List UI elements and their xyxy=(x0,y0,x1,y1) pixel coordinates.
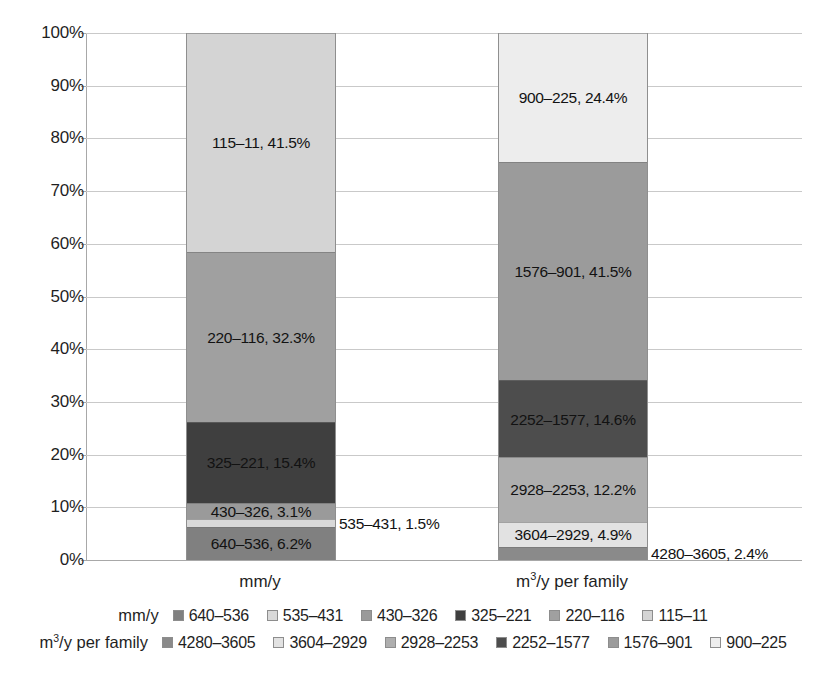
bar-segment[interactable]: 4280–3605, 2.4% xyxy=(499,547,647,560)
legend-item[interactable]: 325–221 xyxy=(455,607,531,625)
segment-data-label: 900–225, 24.4% xyxy=(519,90,628,106)
segment-data-label: 535–431, 1.5% xyxy=(339,516,439,532)
legend-item-label: 220–116 xyxy=(565,607,624,625)
legend: mm/y640–536535–431430–326325–221220–1161… xyxy=(0,606,826,652)
legend-row-title: m3/y per family xyxy=(39,633,148,652)
y-axis-tick-label: 80% xyxy=(14,128,84,148)
legend-swatch xyxy=(385,637,396,648)
bar-segment[interactable]: 2928–2253, 12.2% xyxy=(499,457,647,521)
bar-segment[interactable]: 535–431, 1.5% xyxy=(187,519,335,527)
legend-item-label: 325–221 xyxy=(471,607,531,625)
legend-item-label: 640–536 xyxy=(189,607,249,625)
legend-item-label: 3604–2929 xyxy=(289,634,366,652)
legend-row-title: mm/y xyxy=(118,606,158,625)
x-axis-category-label: m3/y per family xyxy=(498,572,646,592)
superscript: 3 xyxy=(53,632,59,644)
legend-swatch xyxy=(710,637,721,648)
bar-2[interactable]: 4280–3605, 2.4%3604–2929, 4.9%2928–2253,… xyxy=(498,33,648,560)
bar-segment[interactable]: 325–221, 15.4% xyxy=(187,422,335,503)
legend-swatch xyxy=(496,637,507,648)
legend-swatch xyxy=(361,610,372,621)
y-axis-tick-label: 90% xyxy=(14,76,84,96)
stacked-bar-chart: 640–536, 6.2%535–431, 1.5%430–326, 3.1%3… xyxy=(0,0,826,688)
bar-segment[interactable]: 430–326, 3.1% xyxy=(187,503,335,519)
superscript: 3 xyxy=(530,570,536,582)
y-axis-tick-label: 70% xyxy=(14,181,84,201)
segment-data-label: 430–326, 3.1% xyxy=(211,504,311,520)
legend-item[interactable]: 900–225 xyxy=(710,634,786,652)
segment-data-label: 1576–901, 41.5% xyxy=(514,264,631,280)
segment-data-label: 2928–2253, 12.2% xyxy=(510,482,635,498)
y-axis-tick-label: 30% xyxy=(14,392,84,412)
y-axis-tick-label: 60% xyxy=(14,234,84,254)
segment-data-label: 2252–1577, 14.6% xyxy=(510,412,635,428)
legend-item-label: 2252–1577 xyxy=(512,634,589,652)
legend-swatch xyxy=(608,637,619,648)
segment-data-label: 3604–2929, 4.9% xyxy=(514,527,631,543)
y-axis-tick-label: 40% xyxy=(14,339,84,359)
segment-data-label: 640–536, 6.2% xyxy=(211,536,311,552)
legend-item[interactable]: 115–11 xyxy=(642,607,707,625)
legend-item[interactable]: 220–116 xyxy=(549,607,624,625)
legend-swatch xyxy=(162,637,173,648)
y-axis-tick-label: 10% xyxy=(14,497,84,517)
bar-segment[interactable]: 220–116, 32.3% xyxy=(187,252,335,422)
plot-area: 640–536, 6.2%535–431, 1.5%430–326, 3.1%3… xyxy=(86,33,802,560)
legend-swatch xyxy=(173,610,184,621)
legend-item[interactable]: 4280–3605 xyxy=(162,634,255,652)
bar-segment[interactable]: 1576–901, 41.5% xyxy=(499,162,647,381)
legend-item-label: 2928–2253 xyxy=(401,634,478,652)
legend-item[interactable]: 2928–2253 xyxy=(385,634,478,652)
legend-item-label: 430–326 xyxy=(377,607,437,625)
bar-segment[interactable]: 2252–1577, 14.6% xyxy=(499,380,647,457)
legend-item-label: 115–11 xyxy=(658,607,707,625)
bar-segment[interactable]: 640–536, 6.2% xyxy=(187,527,335,560)
legend-item-label: 1576–901 xyxy=(624,634,693,652)
legend-swatch xyxy=(549,610,560,621)
y-axis-tick-label: 20% xyxy=(14,445,84,465)
legend-swatch xyxy=(642,610,653,621)
legend-item-label: 900–225 xyxy=(726,634,786,652)
legend-item[interactable]: 2252–1577 xyxy=(496,634,589,652)
segment-data-label: 325–221, 15.4% xyxy=(207,455,316,471)
bar-segment[interactable]: 115–11, 41.5% xyxy=(187,33,335,252)
legend-item-label: 535–431 xyxy=(283,607,343,625)
y-axis-tick-label: 0% xyxy=(14,550,84,570)
x-axis-category-label: mm/y xyxy=(186,572,334,592)
bar-segment[interactable]: 3604–2929, 4.9% xyxy=(499,522,647,548)
y-axis-tick-label: 100% xyxy=(14,23,84,43)
legend-swatch xyxy=(273,637,284,648)
legend-item[interactable]: 640–536 xyxy=(173,607,249,625)
legend-item[interactable]: 430–326 xyxy=(361,607,437,625)
legend-row: m3/y per family4280–36053604–29292928–22… xyxy=(0,633,826,652)
y-axis-tick-label: 50% xyxy=(14,287,84,307)
legend-item-label: 4280–3605 xyxy=(178,634,255,652)
bar-segment[interactable]: 900–225, 24.4% xyxy=(499,33,647,162)
legend-swatch xyxy=(455,610,466,621)
legend-swatch xyxy=(267,610,278,621)
legend-item[interactable]: 1576–901 xyxy=(608,634,693,652)
legend-item[interactable]: 535–431 xyxy=(267,607,343,625)
legend-item[interactable]: 3604–2929 xyxy=(273,634,366,652)
segment-data-label: 220–116, 32.3% xyxy=(207,330,315,346)
segment-data-label: 4280–3605, 2.4% xyxy=(651,546,768,562)
bar-1[interactable]: 640–536, 6.2%535–431, 1.5%430–326, 3.1%3… xyxy=(186,33,336,560)
legend-row: mm/y640–536535–431430–326325–221220–1161… xyxy=(0,606,826,625)
segment-data-label: 115–11, 41.5% xyxy=(212,135,310,151)
